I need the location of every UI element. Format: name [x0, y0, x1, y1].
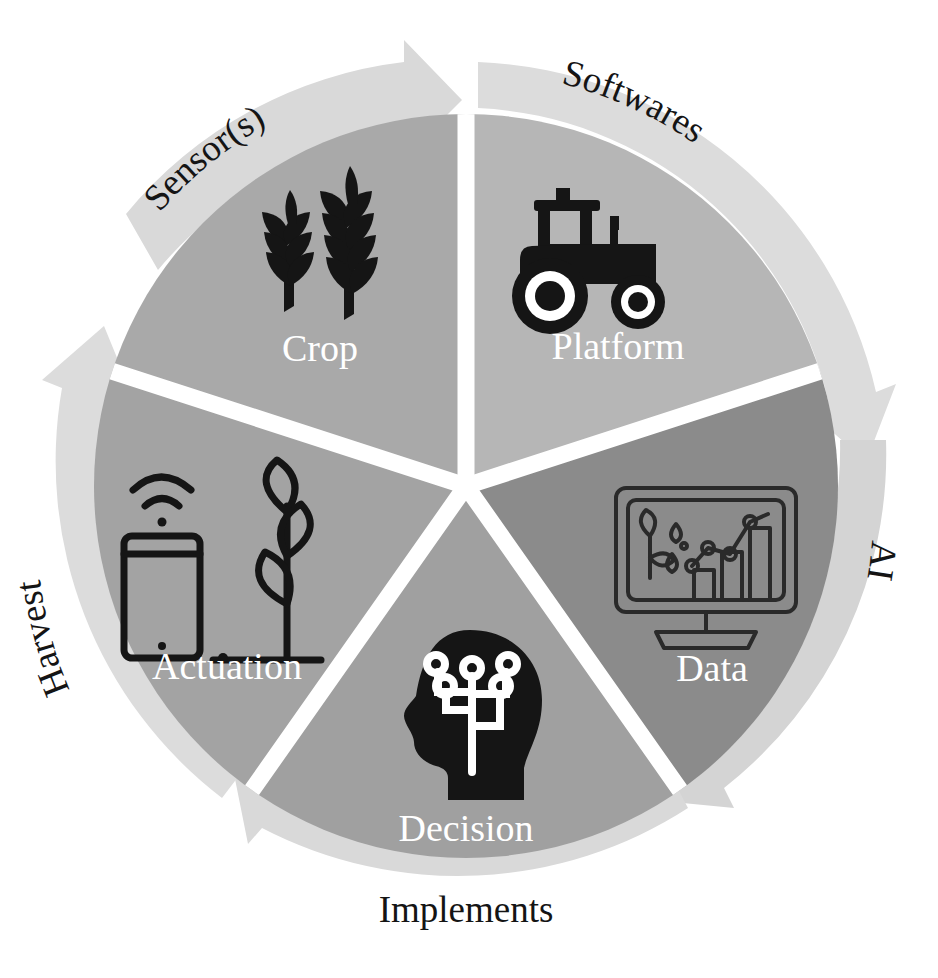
segment-label-decision: Decision — [398, 807, 533, 849]
segment-label-data: Data — [676, 647, 748, 689]
ring-label-ai: AI — [860, 539, 906, 584]
segment-label-platform: Platform — [552, 325, 685, 367]
segment-label-actuation: Actuation — [152, 645, 302, 687]
cycle-wheel-diagram: Crop Platform Data Decision Actuation Se… — [0, 0, 938, 978]
diagram-canvas: Crop Platform Data Decision Actuation Se… — [0, 0, 938, 978]
ring-label-harvest: Harvest — [7, 577, 77, 702]
ring-label-implements: Implements — [379, 889, 554, 930]
segment-label-crop: Crop — [282, 327, 358, 369]
